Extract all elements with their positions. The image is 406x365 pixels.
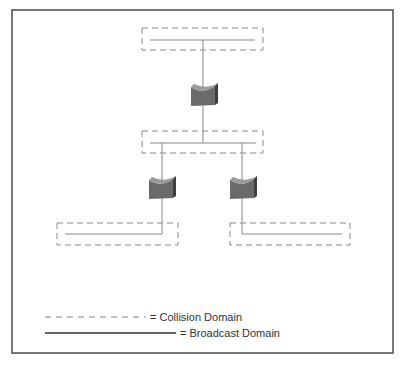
collision-domain-bottom-left bbox=[57, 223, 178, 245]
collision-domain-bottom-right bbox=[230, 223, 350, 245]
bridge-icon bbox=[230, 176, 257, 199]
legend-collision-label: = Collision Domain bbox=[150, 311, 242, 323]
legend-broadcast-label: = Broadcast Domain bbox=[180, 327, 280, 339]
bridge-icon bbox=[191, 83, 218, 106]
